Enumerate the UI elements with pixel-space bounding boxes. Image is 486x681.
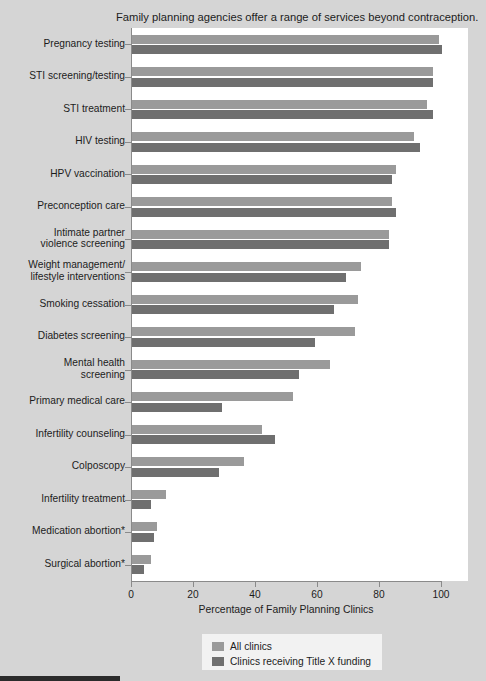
- legend-item-title-x: Clinics receiving Title X funding: [212, 654, 371, 668]
- x-axis-ticks: 020406080100: [0, 0, 486, 681]
- x-axis-tick-label: 40: [249, 589, 260, 600]
- x-axis-tick-label: 20: [187, 589, 198, 600]
- x-axis-tick: [255, 582, 256, 587]
- x-axis-tick-label: 100: [433, 589, 450, 600]
- x-axis-tick: [131, 582, 132, 587]
- x-axis-tick: [317, 582, 318, 587]
- legend-swatch-icon-all-clinics: [212, 642, 224, 651]
- legend-swatch-icon-title-x: [212, 657, 224, 666]
- chart-figure: Family planning agencies offer a range o…: [0, 0, 486, 681]
- legend-label-title-x: Clinics receiving Title X funding: [230, 656, 371, 667]
- x-axis-tick-label: 80: [373, 589, 384, 600]
- x-axis-tick: [193, 582, 194, 587]
- bottom-black-strip: [0, 676, 120, 681]
- x-axis-title: Percentage of Family Planning Clinics: [131, 604, 441, 615]
- x-axis-tick: [379, 582, 380, 587]
- chart-legend: All clinics Clinics receiving Title X fu…: [202, 634, 382, 670]
- x-axis-tick-label: 0: [128, 589, 134, 600]
- legend-item-all-clinics: All clinics: [212, 639, 272, 653]
- x-axis-tick: [441, 582, 442, 587]
- legend-label-all-clinics: All clinics: [230, 641, 272, 652]
- x-axis-tick-label: 60: [311, 589, 322, 600]
